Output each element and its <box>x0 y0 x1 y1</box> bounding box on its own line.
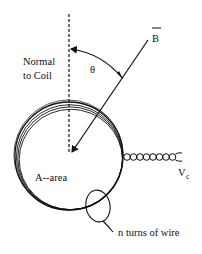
turns-label: n turns of wire <box>118 227 180 238</box>
b-field-vector <box>72 40 148 152</box>
b-label-text: B <box>152 33 159 44</box>
normal-label-line2: to Coil <box>23 70 52 81</box>
area-label: A--area <box>35 172 67 183</box>
twisted-lead-wires <box>124 153 182 162</box>
diagram-svg: B θ Normal to Coil A--area V c <box>0 0 202 254</box>
voltage-label-subscript: c <box>186 172 190 181</box>
theta-arc-end-arrow <box>117 71 123 79</box>
turns-leader-line <box>103 221 113 232</box>
theta-arc <box>71 49 122 78</box>
coil-diagram: B θ Normal to Coil A--area V c <box>0 0 202 254</box>
normal-label-line1: Normal <box>23 56 55 67</box>
voltage-label: V c <box>178 167 190 181</box>
voltage-label-main: V <box>178 167 186 178</box>
b-vector-label: B <box>152 28 161 44</box>
theta-label: θ <box>90 64 95 75</box>
